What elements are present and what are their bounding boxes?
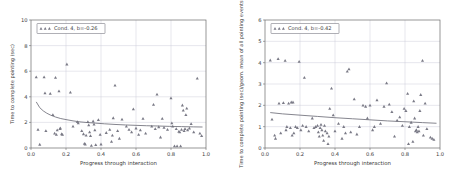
data-point-marker	[180, 128, 183, 131]
data-point-marker	[349, 130, 352, 133]
data-point-marker	[406, 92, 409, 95]
data-point-marker	[53, 132, 56, 135]
data-point-marker	[316, 130, 319, 133]
data-point-marker	[43, 75, 46, 78]
y-tick-label: 5	[258, 38, 261, 44]
data-point-marker	[321, 134, 324, 137]
x-tick-label: 0.6	[132, 151, 140, 157]
y-tick-label: 4	[24, 94, 28, 100]
data-point-marker	[144, 132, 147, 135]
data-point-marker	[328, 107, 331, 110]
data-point-marker	[423, 102, 426, 105]
data-point-marker	[120, 118, 123, 121]
x-axis-title: Progress through interaction	[80, 160, 157, 167]
data-point-marker	[175, 127, 178, 130]
data-point-marker	[425, 127, 428, 130]
data-point-marker	[89, 134, 92, 137]
data-point-marker	[198, 132, 201, 135]
y-tick-label: 0	[24, 145, 27, 151]
y-axis-title: Time to complete pointing (sec)/geom. me…	[238, 0, 245, 169]
data-point-marker	[118, 137, 121, 140]
data-point-marker	[192, 130, 195, 133]
data-point-marker	[56, 129, 59, 132]
data-point-marker	[49, 92, 52, 95]
data-point-marker	[273, 137, 276, 140]
data-point-marker	[331, 113, 334, 116]
x-tick-label: 0.8	[167, 151, 175, 157]
data-point-marker	[130, 130, 133, 133]
regression-fit-line	[36, 102, 202, 127]
data-point-marker	[279, 132, 282, 135]
x-tick-label: 0.2	[295, 151, 303, 157]
data-point-marker	[59, 127, 62, 130]
data-point-marker	[378, 122, 381, 125]
data-point-marker	[302, 76, 305, 79]
data-point-marker	[141, 117, 144, 120]
chart-panel-left: 0.00.20.40.60.81.00246810Progress throug…	[0, 0, 229, 181]
scatter-series	[35, 63, 203, 148]
x-tick-label: 0.4	[97, 151, 106, 157]
y-tick-label: 2	[24, 119, 27, 125]
data-point-marker	[105, 131, 108, 134]
y-tick-label: 8	[24, 43, 27, 49]
data-point-marker	[420, 59, 423, 62]
data-point-marker	[352, 97, 355, 100]
data-point-marker	[390, 110, 393, 113]
data-point-marker	[414, 128, 417, 131]
data-point-marker	[421, 134, 424, 137]
data-point-marker	[307, 129, 310, 132]
data-point-marker	[69, 91, 72, 94]
y-tick-label: 2	[258, 102, 261, 108]
y-axis-title: Time to complete pointing (sec)	[9, 44, 16, 125]
data-point-marker	[152, 103, 155, 106]
y-tick-label: 4	[258, 60, 262, 66]
data-point-marker	[112, 116, 115, 119]
x-tick-label: 0.6	[365, 151, 373, 157]
data-point-marker	[387, 103, 390, 106]
data-point-marker	[137, 133, 140, 136]
data-point-marker	[111, 134, 114, 137]
legend-label: Cond. 4, b=-0.26	[54, 25, 98, 31]
data-point-marker	[365, 117, 368, 120]
data-point-marker	[411, 140, 414, 143]
data-point-marker	[406, 142, 409, 145]
data-point-marker	[134, 127, 137, 130]
figure-container: 0.00.20.40.60.81.00246810Progress throug…	[0, 0, 457, 181]
data-point-marker	[283, 59, 286, 62]
data-point-marker	[413, 117, 416, 120]
data-point-marker	[327, 135, 330, 138]
x-tick-label: 0.8	[400, 151, 408, 157]
data-point-marker	[322, 139, 325, 142]
data-point-marker	[284, 128, 287, 131]
data-point-marker	[310, 117, 313, 120]
y-tick-label: 10	[21, 17, 28, 23]
x-tick-label: 0.2	[62, 151, 70, 157]
data-point-marker	[179, 145, 182, 148]
scatter-plot-right: 0.00.20.40.60.81.00123456Progress throug…	[229, 0, 457, 181]
data-point-marker	[38, 143, 41, 146]
data-point-marker	[185, 107, 188, 110]
data-point-marker	[277, 102, 280, 105]
data-point-marker	[183, 127, 186, 130]
data-point-marker	[90, 144, 93, 147]
data-point-marker	[99, 143, 102, 146]
x-tick-label: 0.0	[27, 151, 35, 157]
data-point-marker	[347, 68, 350, 71]
data-point-marker	[132, 107, 135, 110]
data-point-marker	[184, 113, 187, 116]
data-point-marker	[94, 143, 97, 146]
data-point-marker	[108, 128, 111, 131]
data-point-marker	[159, 136, 162, 139]
data-point-marker	[398, 116, 401, 119]
data-point-marker	[35, 75, 38, 78]
data-point-marker	[166, 128, 169, 131]
y-tick-label: 6	[258, 17, 261, 23]
data-point-marker	[329, 87, 332, 90]
data-point-marker	[392, 135, 395, 138]
data-point-marker	[343, 132, 346, 135]
data-point-marker	[87, 123, 90, 126]
data-point-marker	[85, 134, 88, 137]
data-point-marker	[419, 93, 422, 96]
y-tick-label: 3	[258, 81, 261, 87]
data-point-marker	[287, 102, 290, 105]
